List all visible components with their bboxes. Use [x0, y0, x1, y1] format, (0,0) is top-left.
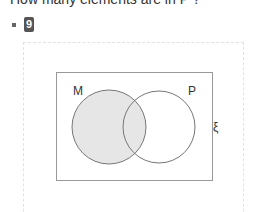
set-m-label: M [73, 84, 83, 98]
set-p-label: P [188, 84, 196, 98]
venn-diagram: M P ξ [0, 0, 255, 212]
universe-label: ξ [213, 120, 219, 134]
set-m-circle [72, 90, 146, 164]
